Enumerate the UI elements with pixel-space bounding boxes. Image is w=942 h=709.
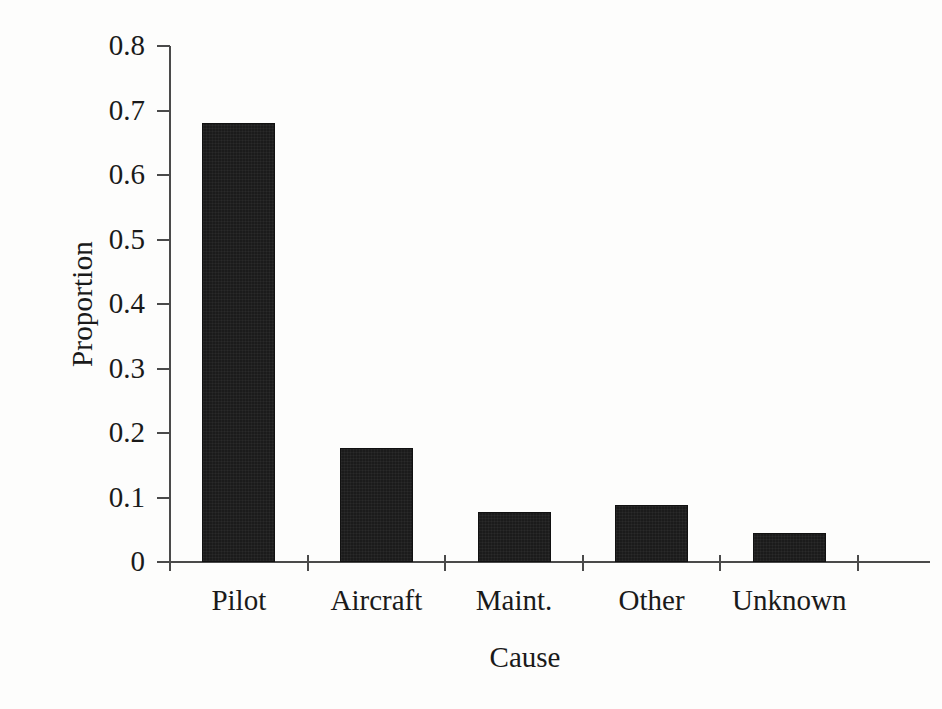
x-tick-mark bbox=[582, 555, 584, 571]
x-tick-mark bbox=[857, 555, 859, 571]
x-tick-label: Unknown bbox=[732, 583, 846, 617]
x-tick-label: Pilot bbox=[211, 583, 266, 617]
x-tick-label: Maint. bbox=[476, 583, 553, 617]
x-tick-mark bbox=[444, 555, 446, 571]
x-tick-mark bbox=[307, 555, 309, 571]
x-tick-mark bbox=[719, 555, 721, 571]
x-axis-label: Cause bbox=[170, 640, 880, 674]
bar-chart: Proportion 00.10.20.30.40.50.60.70.8 Pil… bbox=[0, 0, 942, 709]
x-tick-label: Aircraft bbox=[331, 583, 423, 617]
x-axis-ticks: PilotAircraftMaint.OtherUnknown bbox=[0, 0, 942, 709]
x-tick-mark bbox=[169, 555, 171, 571]
x-tick-label: Other bbox=[619, 583, 685, 617]
